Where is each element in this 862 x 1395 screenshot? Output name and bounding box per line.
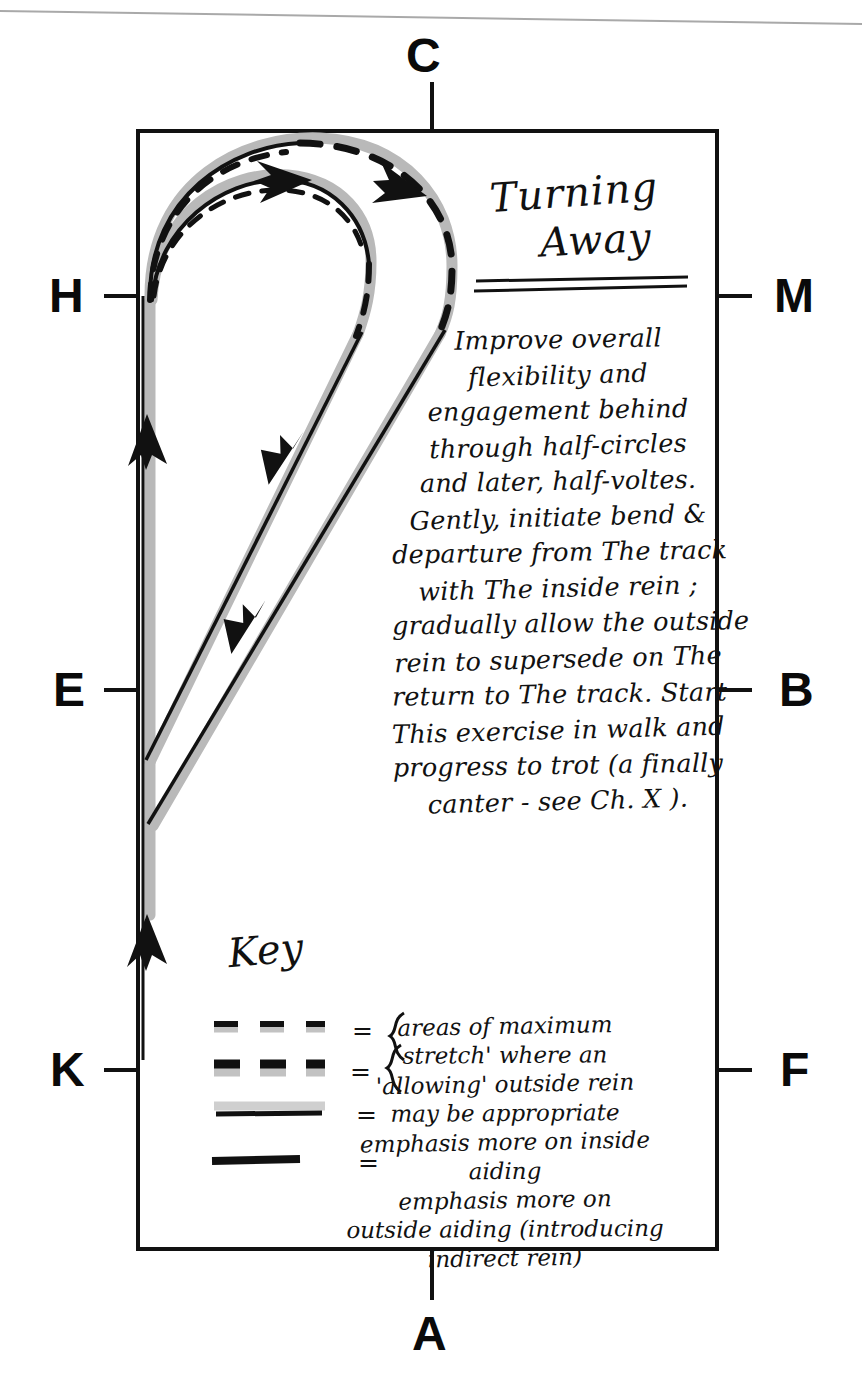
arena-marker-m: M: [774, 272, 814, 320]
outer-arc-dashed: [300, 143, 452, 336]
diagonal-inner-ink: [146, 332, 362, 760]
arena-marker-f: F: [780, 1046, 809, 1094]
arena-marker-a: A: [412, 1310, 447, 1358]
figure-description-text: Improve overall flexibility and engageme…: [392, 322, 724, 819]
outer-arc-gray: [150, 138, 452, 334]
arrowheads: [127, 161, 427, 971]
arrowhead-inner-arc: [254, 161, 312, 203]
arena-marker-e: E: [53, 666, 85, 714]
page-canvas: C H M E B K F A Turning Away Improve ove…: [0, 0, 862, 1395]
key-heading: Key: [226, 925, 305, 975]
figure-title: Turning Away: [449, 178, 699, 268]
arena-marker-k: K: [50, 1046, 85, 1094]
arrowhead-track-upper: [128, 414, 167, 470]
arena-marker-h: H: [49, 272, 84, 320]
arrowhead-track-lower: [127, 914, 167, 971]
key-labels: areas of maximum stretch' where an 'allo…: [290, 1012, 720, 1273]
key-swatch-thick-solid: [212, 1159, 300, 1161]
arena-marker-b: B: [779, 666, 814, 714]
arena-marker-c: C: [406, 32, 441, 80]
scan-edge-line: [0, 11, 862, 24]
title-underline: [474, 277, 688, 291]
figure-title-line-2: Away: [492, 211, 700, 268]
body-line: canter - see Ch. X ).: [392, 779, 725, 823]
key-label-line: indirect rein): [290, 1240, 720, 1277]
